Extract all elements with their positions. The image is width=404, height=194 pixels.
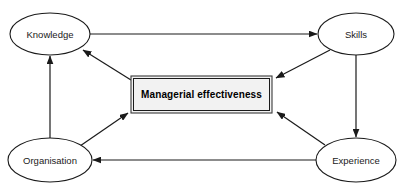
node-managerial-effectiveness-label: Managerial effectiveness (141, 89, 262, 100)
node-organisation-label: Organisation (23, 155, 77, 166)
edge-skills-to-effectiveness (276, 50, 330, 78)
edge-experience-to-effectiveness (277, 112, 325, 145)
node-knowledge-label: Knowledge (26, 29, 73, 40)
node-experience-label: Experience (332, 155, 380, 166)
node-managerial-effectiveness[interactable]: Managerial effectiveness (131, 76, 272, 113)
node-knowledge[interactable]: Knowledge (10, 13, 90, 55)
edge-effectiveness-to-knowledge (83, 50, 131, 80)
node-skills[interactable]: Skills (318, 13, 394, 55)
managerial-effectiveness-diagram: Knowledge Skills Organisation Experience… (0, 0, 404, 194)
edge-organisation-to-effectiveness (80, 113, 128, 146)
node-skills-label: Skills (345, 29, 367, 40)
node-experience[interactable]: Experience (316, 138, 396, 182)
diagram-canvas: Knowledge Skills Organisation Experience… (0, 0, 404, 194)
node-organisation[interactable]: Organisation (8, 138, 92, 182)
